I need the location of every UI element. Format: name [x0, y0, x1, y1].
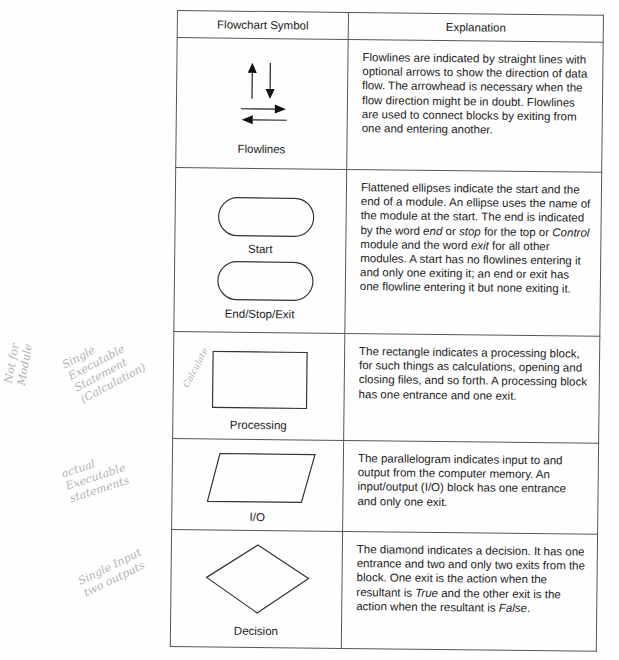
- header-flowchart-symbol: Flowchart Symbol: [177, 11, 348, 40]
- symbol-label-io: I/O: [172, 510, 342, 524]
- table-row-flowlines: Flowlines Flowlines are indicated by str…: [176, 38, 603, 173]
- explanation-cell-decision: The diamond indicates a decision. It has…: [341, 531, 597, 651]
- handwritten-note-actual-executable: actual Executable statements: [60, 449, 131, 505]
- flowchart-symbols-table-wrap: Flowchart Symbol Explanation: [170, 10, 603, 652]
- explanation-io: The parallelogram indicates input to and…: [343, 441, 598, 511]
- flowchart-symbols-table: Flowchart Symbol Explanation: [170, 10, 604, 652]
- symbol-cell-decision: Decision: [170, 529, 342, 648]
- table-row-io: I/O The parallelogram indicates input to…: [172, 438, 599, 534]
- symbol-cell-start-end: Start End/Stop/Exit: [174, 167, 347, 333]
- table-row-start-end: Start End/Stop/Exit Flattened ellipses i…: [174, 167, 602, 336]
- table-row-decision: Decision The diamond indicates a decisio…: [170, 529, 597, 651]
- explanation-cell-processing: The rectangle indicates a processing blo…: [344, 333, 600, 443]
- terminal-ellipse-icon: [217, 196, 314, 239]
- symbol-label-flowlines: Flowlines: [176, 142, 346, 156]
- symbol-label-processing: Processing: [173, 418, 343, 432]
- rectangle-icon: [211, 350, 309, 411]
- table-row-processing: Processing The rectangle indicates a pro…: [173, 331, 600, 443]
- handwritten-note-single-input: Single Input two outputs: [76, 546, 149, 599]
- handwritten-note-single-executable: Single Executable Statement (Calculation…: [60, 326, 148, 406]
- terminal-ellipse-end-icon: [217, 260, 314, 303]
- symbol-label-end-stop-exit: End/Stop/Exit: [174, 307, 344, 321]
- symbol-label-decision: Decision: [171, 624, 341, 638]
- explanation-flowlines: Flowlines are indicated by straight line…: [348, 40, 603, 138]
- diamond-icon: [205, 543, 310, 616]
- explanation-cell-io: The parallelogram indicates input to and…: [343, 440, 599, 534]
- symbol-cell-processing: Processing: [173, 331, 345, 440]
- explanation-processing: The rectangle indicates a processing blo…: [345, 334, 600, 404]
- handwritten-note-not-for-module: Not for Module: [2, 341, 35, 387]
- flowline-arrows-icon: [239, 61, 290, 132]
- symbol-label-start: Start: [175, 242, 345, 256]
- scanned-page: Not for Module Single Executable Stateme…: [0, 0, 619, 660]
- symbol-cell-flowlines: Flowlines: [176, 38, 348, 170]
- explanation-cell-flowlines: Flowlines are indicated by straight line…: [347, 39, 603, 172]
- parallelogram-icon: [206, 452, 317, 505]
- symbol-cell-io: I/O: [172, 438, 344, 531]
- explanation-start-end: Flattened ellipses indicate the start an…: [346, 170, 601, 296]
- explanation-decision: The diamond indicates a decision. It has…: [342, 532, 597, 616]
- explanation-cell-start-end: Flattened ellipses indicate the start an…: [345, 169, 602, 336]
- header-explanation: Explanation: [348, 12, 603, 42]
